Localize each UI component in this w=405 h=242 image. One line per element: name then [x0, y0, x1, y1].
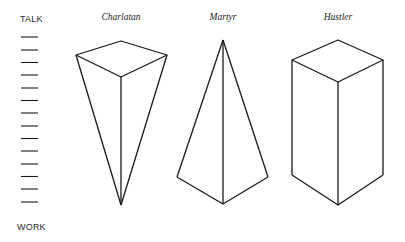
martyr-left-edge — [177, 40, 223, 177]
diagram-canvas — [0, 0, 405, 242]
charlatan-left-edge — [76, 55, 121, 205]
charlatan-shape — [76, 41, 167, 205]
hustler-shape — [292, 40, 383, 205]
martyr-right-edge — [223, 40, 268, 177]
martyr-shape — [177, 40, 268, 204]
hustler-top-face — [292, 40, 383, 82]
talk-work-scale — [21, 37, 38, 202]
charlatan-right-edge — [121, 55, 167, 205]
charlatan-top-face — [76, 41, 167, 77]
